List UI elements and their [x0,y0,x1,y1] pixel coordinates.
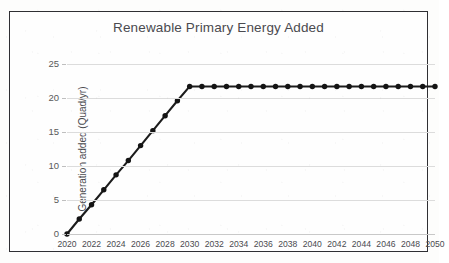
data-point [359,84,364,89]
data-point [346,84,351,89]
x-tick-label: 2050 [421,239,449,249]
data-point [396,84,401,89]
gridline-y [67,200,435,201]
gridline-y [67,132,435,133]
data-point [126,158,131,163]
y-tick-label: 15 [33,127,59,137]
data-point [297,84,302,89]
data-point [101,187,106,192]
series-renewable-primary-energy-added [67,64,435,234]
gridline-y [67,98,435,99]
chart-frame: Renewable Primary Energy Added Generatio… [9,11,428,252]
data-point [322,84,327,89]
data-point [261,84,266,89]
y-tick-mark [62,200,66,201]
y-axis-title-container: Generation added (Quad/yr) [32,64,46,234]
data-point [89,202,94,207]
plot-area [67,64,435,234]
data-point [212,84,217,89]
x-axis-line [67,234,435,235]
data-point [77,216,82,221]
y-tick-label: 10 [33,161,59,171]
data-point [408,84,413,89]
y-tick-mark [62,132,66,133]
gridline-y [67,64,435,65]
data-point [113,172,118,177]
data-point [236,84,241,89]
data-point [383,84,388,89]
data-point [273,84,278,89]
data-point [420,84,425,89]
data-point [224,84,229,89]
y-tick-label: 25 [33,59,59,69]
y-tick-label: 0 [33,229,59,239]
y-tick-mark [62,166,66,167]
data-point [162,113,167,118]
y-tick-mark [62,234,66,235]
data-point [138,143,143,148]
data-point [248,84,253,89]
y-tick-mark [62,98,66,99]
data-point [432,84,437,89]
y-tick-label: 20 [33,93,59,103]
data-point [285,84,290,89]
gridline-y [67,166,435,167]
y-tick-label: 5 [33,195,59,205]
data-point [371,84,376,89]
y-tick-mark [62,64,66,65]
data-point [199,84,204,89]
data-point [334,84,339,89]
chart-title: Renewable Primary Energy Added [10,20,427,35]
data-point [310,84,315,89]
data-point [187,84,192,89]
